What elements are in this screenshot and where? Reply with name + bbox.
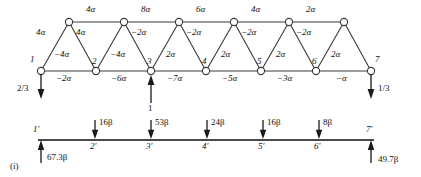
joint-bottom-5: [257, 67, 264, 74]
diagonal-12: [344, 22, 371, 71]
diagonal-label-9: −2α: [241, 28, 256, 37]
beam-node-label-3: 3′: [146, 142, 152, 151]
joint-bottom-1: [37, 67, 44, 74]
top-chord-label-3: 6α: [196, 5, 205, 14]
bottom-chord-label-4: −5α: [222, 74, 237, 83]
diagonal-label-4: −4α: [110, 50, 125, 59]
bottom-chord-label-6: −α: [336, 74, 347, 83]
diagonal-label-11: −2α: [296, 28, 311, 37]
diagonal-label-8: 2α: [221, 50, 230, 59]
beam-load-label-6: 8β: [323, 118, 332, 127]
bottom-chord-label-1: −2α: [56, 74, 71, 83]
joint-top-4: [230, 18, 237, 25]
diagonal-7: [206, 22, 234, 71]
truss-node-label-3: 3: [147, 57, 152, 66]
bottom-chord-label-2: −6α: [111, 74, 126, 83]
truss-node-label-6: 6: [312, 57, 317, 66]
joint-top-2: [120, 18, 127, 25]
joint-top-5: [285, 18, 292, 25]
joint-top-3: [175, 18, 182, 25]
diagonal-11: [316, 22, 344, 71]
bottom-chord-label-3: −7α: [167, 74, 182, 83]
truss-load-label-node1: 2/3: [17, 84, 29, 93]
truss-load-arrows: [38, 74, 375, 103]
top-chord-label-1: 4α: [86, 5, 95, 14]
beam-load-label-4: 24β: [211, 118, 225, 127]
joint-bottom-2: [92, 67, 99, 74]
diagonal-label-12: 2α: [331, 50, 340, 59]
beam-load-3-head: [148, 130, 154, 139]
truss-node-label-4: 4: [202, 57, 207, 66]
diagonal-9: [261, 22, 289, 71]
truss-load-label-node7: 1/3: [378, 84, 390, 93]
truss-node-label-1: 1: [30, 55, 35, 64]
beam-reaction-1-head: [38, 140, 44, 150]
truss-node-label-7: 7: [375, 55, 380, 64]
joint-bottom-7: [367, 67, 374, 74]
joint-top-1: [65, 18, 72, 25]
beam-load-2-head: [92, 130, 98, 139]
beam-node-label-5: 5′: [258, 142, 264, 151]
beam-load-6-head: [316, 130, 322, 139]
truss-node-label-5: 5: [257, 57, 262, 66]
diagonal-label-6: 2α: [166, 50, 175, 59]
truss-joints: [37, 18, 374, 74]
beam-node-label-1: 1′: [33, 125, 39, 134]
beam-node-label-4: 4′: [202, 142, 208, 151]
joint-bottom-6: [312, 67, 319, 74]
truss-node-label-2: 2: [92, 57, 97, 66]
beam-reaction-label-1: 67.3β: [47, 153, 67, 162]
bottom-chord-label-5: −3α: [277, 74, 292, 83]
diagonal-label-7: −2α: [186, 28, 201, 37]
joint-top-6: [340, 18, 347, 25]
diagonal-5: [151, 22, 179, 71]
joint-bottom-3: [147, 67, 154, 74]
figure-drawing: [0, 0, 421, 177]
joint-bottom-4: [202, 67, 209, 74]
top-chord-label-2: 8α: [141, 5, 150, 14]
diagonal-label-1: 4α: [36, 28, 45, 37]
beam-load-5-head: [260, 130, 266, 139]
figure-container: 4α 8α 6α 4α 2α 4α 4α −4α −4α −2α 2α −2α …: [0, 0, 421, 177]
load-arrow-node1-head: [38, 89, 45, 99]
truss-load-label-node3: 1: [148, 104, 153, 113]
beam-node-label-6: 6′: [314, 142, 320, 151]
diagonal-label-3: −4α: [54, 50, 69, 59]
load-arrow-node7-head: [368, 89, 375, 99]
top-chord-label-4: 4α: [251, 5, 260, 14]
top-chord-label-5: 2α: [306, 5, 315, 14]
load-arrow-node3-head: [148, 75, 155, 85]
beam-load-4-head: [204, 130, 210, 139]
diagonal-label-2: 4α: [76, 28, 85, 37]
diagonal-label-10: 2α: [276, 50, 285, 59]
beam-load-label-3: 53β: [155, 118, 169, 127]
diagonal-label-5: −2α: [131, 28, 146, 37]
figure-tag: (i): [10, 162, 19, 171]
beam-reaction-7-head: [368, 140, 374, 150]
beam-node-label-7: 7′: [366, 125, 372, 134]
beam-load-label-2: 16β: [99, 118, 113, 127]
beam-node-label-2: 2′: [90, 142, 96, 151]
beam-reaction-label-7: 49.7β: [378, 155, 398, 164]
beam-load-arrows: [92, 120, 322, 139]
diagonal-3: [96, 22, 124, 71]
beam-load-label-5: 16β: [267, 118, 281, 127]
